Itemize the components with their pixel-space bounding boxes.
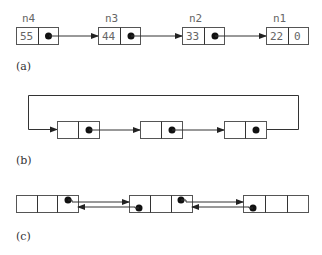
panel-c: (c) [16, 196, 309, 244]
doubly-node-3 [244, 196, 309, 213]
node-label: n2 [189, 12, 202, 25]
panel-a: n4 55 n3 44 n2 33 n1 [16, 12, 309, 73]
null-pointer: 0 [294, 30, 301, 43]
node-label: n1 [273, 12, 286, 25]
node-value: 33 [186, 30, 199, 43]
node-value: 22 [270, 30, 283, 43]
caption-c: (c) [16, 230, 31, 243]
panel-b: (b) [16, 96, 299, 168]
linked-list-figure: n4 55 n3 44 n2 33 n1 [0, 0, 322, 255]
node-n3: n3 44 [99, 12, 141, 45]
node-value: 55 [20, 30, 33, 43]
pointer-dot [253, 127, 260, 134]
node-n1: n1 22 0 [267, 12, 309, 45]
node-n2: n2 33 [183, 12, 225, 45]
node-n4: n4 55 [17, 12, 59, 45]
caption-b: (b) [16, 154, 32, 167]
node-label: n4 [22, 12, 36, 25]
node-value: 44 [102, 30, 116, 43]
doubly-node-1 [17, 196, 79, 213]
doubly-node-2 [130, 196, 193, 213]
caption-a: (a) [16, 60, 31, 73]
node-label: n3 [105, 12, 118, 25]
circular-node-3 [225, 122, 267, 139]
